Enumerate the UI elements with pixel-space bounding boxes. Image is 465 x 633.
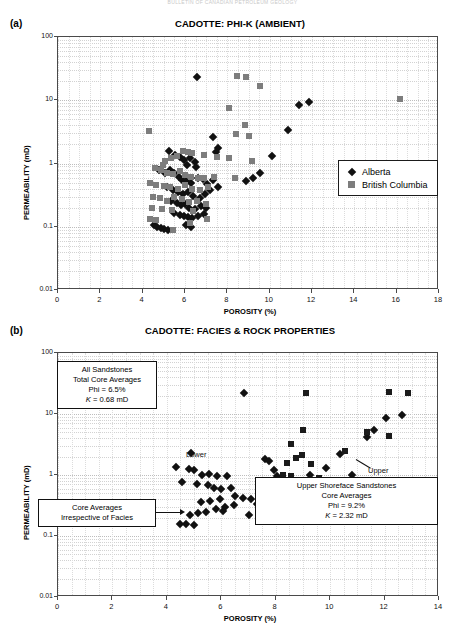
data-point: [170, 227, 176, 233]
grid-line: [174, 37, 175, 288]
grid-line: [58, 56, 437, 57]
grid-line: [58, 241, 437, 242]
grid-line: [58, 114, 437, 115]
data-point: [189, 150, 195, 156]
x-axis-tick-label: 6: [174, 295, 194, 304]
data-point: [179, 196, 185, 202]
grid-line: [58, 554, 437, 555]
x-axis-tick-mark: [166, 596, 167, 600]
data-point: [265, 457, 273, 465]
legend-label: British Columbia: [362, 180, 428, 190]
grid-line: [58, 81, 437, 82]
x-axis-tick-mark: [57, 596, 58, 600]
grid-line: [58, 37, 59, 288]
data-point: [243, 74, 249, 80]
grid-line: [58, 246, 437, 247]
running-head: BULLETIN OF CANADIAN PETROLEUM GEOLOGY: [60, 0, 405, 7]
x-axis-tick-label: 12: [301, 295, 321, 304]
core-averages-arrow-icon: [180, 509, 185, 515]
grid-line: [143, 37, 144, 288]
all-sandstones-annotation: All Sandstones Total Core Averages Phi =…: [57, 361, 157, 409]
anno-line: Phi = 9.2%: [260, 501, 433, 511]
grid-line: [58, 230, 437, 231]
data-point: [150, 194, 156, 200]
anno-line: Core Averages: [260, 491, 433, 501]
x-axis-tick-mark: [311, 289, 312, 293]
data-point: [214, 183, 222, 191]
data-point: [182, 182, 188, 188]
anno-line-italic: K = 2.32 mD: [260, 511, 433, 521]
panel-a-letter: (a): [10, 18, 22, 29]
figure-root: BULLETIN OF CANADIAN PETROLEUM GEOLOGY (…: [0, 0, 465, 633]
x-axis-tick-mark: [329, 596, 330, 600]
grid-line: [79, 37, 80, 288]
grid-line: [270, 37, 271, 288]
grid-line: [111, 37, 112, 288]
data-point: [168, 155, 174, 161]
legend-item-alberta: Alberta: [345, 165, 430, 178]
x-axis-tick-label: 0: [47, 602, 67, 611]
grid-line: [58, 539, 437, 540]
panel-a-title: CADOTTE: PHI-K (AMBIENT): [80, 18, 400, 29]
grid-line: [58, 414, 437, 415]
grid-line: [58, 420, 437, 421]
data-point: [386, 433, 392, 439]
data-point: [303, 390, 309, 396]
grid-line: [180, 353, 181, 595]
grid-line: [301, 37, 302, 288]
data-point: [397, 96, 403, 102]
data-point: [159, 206, 165, 212]
data-point: [194, 509, 202, 517]
grid-line: [425, 353, 426, 595]
grid-line: [58, 119, 437, 120]
data-point: [153, 217, 159, 223]
data-point: [308, 461, 314, 467]
anno-line: Phi = 6.5%: [62, 385, 152, 395]
panel-b-x-axis-title: POROSITY (%): [180, 614, 320, 623]
data-point: [161, 183, 167, 189]
x-axis-tick-mark: [384, 596, 385, 600]
data-point: [222, 472, 230, 480]
grid-line: [58, 432, 437, 433]
data-point: [246, 133, 252, 139]
data-point: [201, 175, 207, 181]
anno-line: Irrespective of Facies: [43, 513, 151, 523]
data-point: [232, 175, 238, 181]
anno-line: Core Averages: [43, 503, 151, 513]
grid-line: [58, 536, 437, 537]
data-point: [202, 507, 210, 515]
data-point: [190, 521, 198, 529]
grid-line: [58, 545, 437, 546]
x-axis-tick-label: 14: [428, 602, 448, 611]
panel-a-legend: Alberta British Columbia: [338, 160, 438, 196]
grid-line: [167, 353, 168, 595]
x-axis-tick-mark: [396, 289, 397, 293]
y-axis-tick-label: 10: [27, 409, 53, 416]
grid-line: [58, 356, 437, 357]
grid-line: [58, 359, 437, 360]
y-axis-tick-mark: [54, 226, 58, 227]
grid-line: [412, 353, 413, 595]
data-point: [153, 182, 159, 188]
grid-line: [58, 233, 437, 234]
data-point: [216, 495, 224, 503]
grid-line: [58, 106, 437, 107]
grid-line: [58, 446, 437, 447]
data-point: [257, 83, 263, 89]
legend-item-british-columbia: British Columbia: [345, 178, 430, 191]
grid-line: [58, 271, 437, 272]
data-point: [386, 389, 392, 395]
y-axis-tick-label: 0.01: [27, 285, 53, 292]
data-point: [322, 464, 330, 472]
grid-line: [58, 428, 437, 429]
grid-line: [58, 51, 437, 52]
grid-line: [323, 37, 324, 288]
lower-facies-label: Lower: [186, 450, 206, 459]
x-axis-tick-label: 18: [428, 295, 448, 304]
data-point: [229, 501, 237, 509]
data-point: [190, 466, 198, 474]
grid-line: [58, 227, 437, 228]
grid-line: [344, 353, 345, 595]
anno-line-italic: K = 0.68 mD: [62, 395, 152, 405]
data-point: [205, 184, 211, 190]
